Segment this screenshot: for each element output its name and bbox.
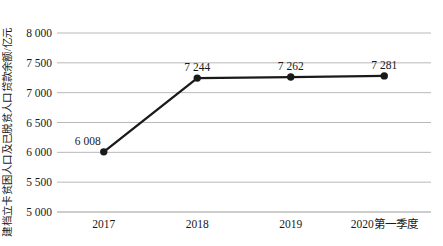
y-axis-title: 建档立卡贫困人口及已脱贫人口贷款余额/亿元 [1, 27, 13, 237]
y-tick-label: 5 500 [26, 176, 52, 188]
x-tick-label: 2019 [279, 218, 302, 230]
data-point-label: 7 281 [371, 59, 397, 71]
data-point-marker [287, 73, 294, 80]
loan-balance-line-chart: 5 0005 5006 0006 5007 0007 5008 00020172… [0, 0, 443, 246]
y-tick-label: 6 000 [26, 146, 52, 158]
x-tick-label: 2020第一季度 [351, 217, 419, 230]
line-chart-svg: 5 0005 5006 0006 5007 0007 5008 00020172… [0, 0, 443, 246]
y-tick-label: 6 500 [26, 117, 52, 129]
data-point-marker [381, 72, 388, 79]
x-tick-label: 2018 [186, 218, 209, 230]
y-tick-label: 8 000 [26, 27, 52, 39]
y-tick-label: 5 000 [26, 206, 52, 218]
y-tick-label: 7 500 [26, 57, 52, 69]
data-point-label: 7 244 [184, 61, 210, 73]
data-point-label: 6 008 [75, 135, 101, 147]
data-point-label: 7 262 [278, 60, 304, 72]
data-point-marker [100, 148, 107, 155]
data-point-marker [194, 74, 201, 81]
x-tick-label: 2017 [92, 218, 115, 230]
y-tick-label: 7 000 [26, 87, 52, 99]
series-line [104, 76, 385, 152]
